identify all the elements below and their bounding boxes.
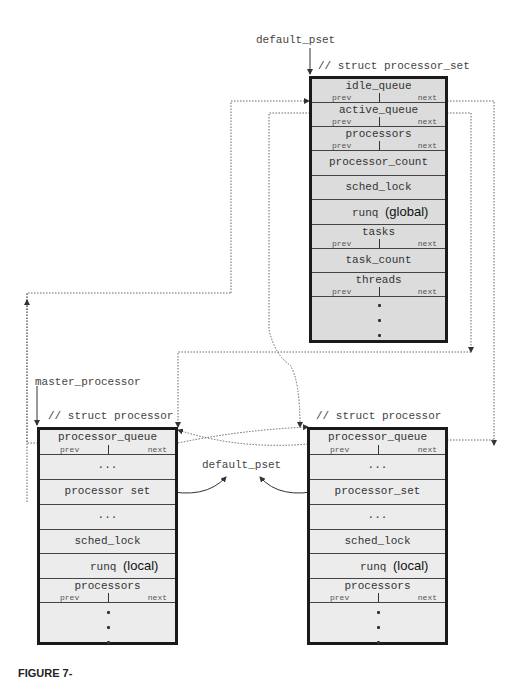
field-tasks: tasks prev next [312,225,445,249]
field-processor-set: processor set [40,480,175,505]
field-runq-local: runq (local) [40,554,175,579]
field-sched-lock: sched_lock [310,530,445,554]
field-ellipsis: ... [310,455,445,480]
scope-local: (local) [393,558,428,573]
field-processor-queue: processor_queue prev next [310,430,445,455]
default-pset-label: default_pset [256,34,335,46]
field-processors: processors prev next [312,127,445,151]
field-processor-queue: processor_queue prev next [40,430,175,455]
field-sched-lock: sched_lock [312,176,445,200]
field-ellipsis: ... [40,455,175,480]
field-threads: threads prev next [312,273,445,297]
default-pset-middle-label: default_pset [202,459,281,471]
processor-set-comment: // struct processor_set [318,60,470,72]
field-sched-lock: sched_lock [40,530,175,554]
field-ellipsis: ... [40,505,175,530]
field-processors: processors prev next [310,579,445,603]
field-processor-set: processor_set [310,480,445,505]
field-runq-global: runq (global) [312,200,445,225]
master-processor-struct: processor_queue prev next ... processor … [37,427,178,645]
right-processor-comment: // struct processor [316,410,441,422]
scope-global: (global) [385,204,428,219]
field-runq-local: runq (local) [310,554,445,579]
field-processor-count: processor_count [312,151,445,176]
field-processors: processors prev next [40,579,175,603]
field-task-count: task_count [312,249,445,273]
field-ellipsis: ... [310,505,445,530]
field-idle-queue: idle_queue prev next [312,79,445,103]
master-processor-label: master_processor [35,376,141,388]
left-processor-comment: // struct processor [48,410,173,422]
field-active-queue: active_queue prev next [312,103,445,127]
processor-set-struct: idle_queue prev next active_queue prev n… [309,76,448,343]
figure-caption: FIGURE 7- [18,667,72,677]
processor-struct: processor_queue prev next ... processor_… [307,427,448,645]
scope-local: (local) [123,558,158,573]
